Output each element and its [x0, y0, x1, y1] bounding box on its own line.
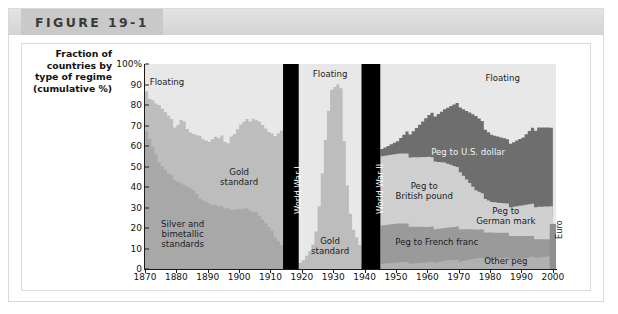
x-tick-1960: 1960 — [416, 272, 439, 282]
annotation-world-war-ii: World War II — [375, 164, 385, 214]
y-axis-caption-line-3: type of regime — [16, 71, 112, 83]
x-tick-1980: 1980 — [479, 272, 502, 282]
y-tick-50: 50 — [131, 162, 142, 172]
x-tick-mark-1880 — [176, 269, 177, 273]
chart-plot-area: FloatingGold standardSilver and bimetall… — [145, 64, 556, 269]
x-tick-1870: 1870 — [134, 272, 157, 282]
y-tick-mark-50 — [145, 166, 149, 167]
x-tick-mark-1930 — [333, 269, 334, 273]
y-tick-10: 10 — [131, 244, 142, 254]
y-tick-mark-20 — [145, 228, 149, 229]
x-tick-mark-2000 — [553, 269, 554, 273]
x-tick-1900: 1900 — [228, 272, 251, 282]
y-tick-30: 30 — [131, 203, 142, 213]
x-tick-mark-1960 — [427, 269, 428, 273]
x-tick-1890: 1890 — [196, 272, 219, 282]
y-axis-caption-line-1: Fraction of — [16, 48, 112, 60]
stacked-area-chart — [145, 64, 556, 269]
y-tick-mark-60 — [145, 146, 149, 147]
y-tick-mark-80 — [145, 105, 149, 106]
y-axis-caption-line-4: (cumulative %) — [16, 83, 112, 95]
x-tick-mark-1890 — [208, 269, 209, 273]
y-axis-tick-labels: 0102030405060708090100% — [108, 0, 142, 314]
x-tick-mark-1900 — [239, 269, 240, 273]
y-tick-mark-30 — [145, 207, 149, 208]
x-tick-1950: 1950 — [385, 272, 408, 282]
annotation-world-war-i: World War I — [293, 166, 303, 214]
x-tick-mark-1940 — [365, 269, 366, 273]
x-tick-mark-1980 — [490, 269, 491, 273]
y-tick-70: 70 — [131, 121, 142, 131]
x-axis-line — [144, 269, 557, 270]
y-tick-mark-100 — [145, 64, 149, 65]
chart-svg — [145, 64, 556, 269]
x-tick-mark-1920 — [302, 269, 303, 273]
x-tick-1930: 1930 — [322, 272, 345, 282]
y-tick-40: 40 — [131, 182, 142, 192]
y-axis-caption-line-2: countries by — [16, 60, 112, 72]
y-tick-mark-10 — [145, 248, 149, 249]
y-tick-90: 90 — [131, 80, 142, 90]
x-tick-mark-1990 — [521, 269, 522, 273]
annotation-euro: Euro — [554, 220, 564, 239]
figure-header-bar: FIGURE 19-1 — [9, 9, 603, 35]
y-axis-caption: Fraction of countries by type of regime … — [16, 48, 112, 94]
x-tick-2000: 2000 — [541, 272, 564, 282]
x-tick-1990: 1990 — [510, 272, 533, 282]
y-tick-60: 60 — [131, 141, 142, 151]
x-tick-1920: 1920 — [290, 272, 313, 282]
y-tick-80: 80 — [131, 100, 142, 110]
x-tick-1910: 1910 — [259, 272, 282, 282]
y-tick-mark-70 — [145, 125, 149, 126]
y-tick-100: 100% — [116, 59, 142, 69]
x-tick-1970: 1970 — [447, 272, 470, 282]
y-tick-mark-40 — [145, 187, 149, 188]
x-tick-mark-1970 — [459, 269, 460, 273]
x-tick-mark-1870 — [145, 269, 146, 273]
x-tick-mark-1910 — [270, 269, 271, 273]
x-tick-mark-1950 — [396, 269, 397, 273]
y-tick-mark-90 — [145, 84, 149, 85]
y-tick-20: 20 — [131, 223, 142, 233]
x-tick-1940: 1940 — [353, 272, 376, 282]
x-tick-1880: 1880 — [165, 272, 188, 282]
